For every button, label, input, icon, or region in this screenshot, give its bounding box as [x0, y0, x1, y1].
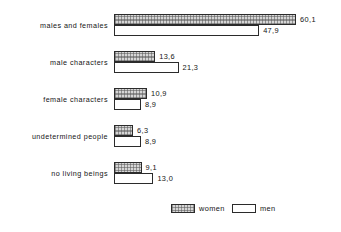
value-label: 13,0 — [157, 174, 173, 183]
bar-rect-men — [114, 173, 153, 184]
category-label: males and females — [0, 21, 108, 30]
bar-group: male characters13,621,3 — [0, 49, 341, 83]
bar-group: males and females60,147,9 — [0, 12, 341, 46]
value-label: 8,9 — [145, 100, 156, 109]
legend-swatch-women — [171, 204, 195, 213]
category-label: no living beings — [0, 169, 108, 178]
bar-men — [114, 62, 179, 73]
value-label: 13,6 — [159, 52, 175, 61]
bar-chart: males and females60,147,9male characters… — [0, 0, 341, 232]
category-label: female characters — [0, 95, 108, 104]
bar-rect-women — [114, 125, 133, 136]
legend-label: men — [260, 204, 276, 213]
bar-group: no living beings9,113,0 — [0, 160, 341, 194]
bar-rect-men — [114, 99, 141, 110]
bar-men — [114, 136, 141, 147]
bar-group: female characters10,98,9 — [0, 86, 341, 120]
bar-rect-men — [114, 136, 141, 147]
value-label: 21,3 — [183, 63, 199, 72]
bar-women — [114, 125, 133, 136]
bar-rect-men — [114, 25, 259, 36]
category-label: undetermined people — [0, 132, 108, 141]
bar-rect-women — [114, 14, 296, 25]
bar-men — [114, 173, 153, 184]
category-label: male characters — [0, 58, 108, 67]
bar-group: undetermined people6,38,9 — [0, 123, 341, 157]
value-label: 8,9 — [145, 137, 156, 146]
bar-men — [114, 25, 259, 36]
bar-women — [114, 14, 296, 25]
bar-rect-women — [114, 51, 155, 62]
value-label: 10,9 — [151, 89, 167, 98]
value-label: 9,1 — [146, 163, 157, 172]
chart-legend: womenmen — [0, 203, 341, 217]
bar-women — [114, 51, 155, 62]
bar-rect-women — [114, 162, 142, 173]
bar-women — [114, 88, 147, 99]
bar-rect-men — [114, 62, 179, 73]
value-label: 6,3 — [137, 126, 148, 135]
legend-label: women — [199, 204, 225, 213]
bar-men — [114, 99, 141, 110]
bar-rect-women — [114, 88, 147, 99]
value-label: 47,9 — [263, 26, 279, 35]
bar-women — [114, 162, 142, 173]
legend-swatch-men — [232, 204, 256, 213]
value-label: 60,1 — [300, 15, 316, 24]
